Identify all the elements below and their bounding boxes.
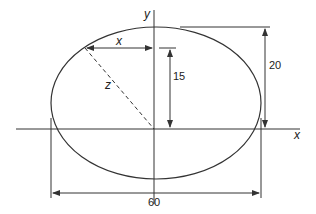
z-label: z: [104, 78, 111, 92]
z-radius-line: [85, 48, 154, 129]
height-20-label: 20: [269, 59, 281, 71]
x-offset-label: x: [115, 34, 123, 48]
y-axis-label: y: [143, 7, 151, 21]
width-60-label: 60: [148, 196, 160, 208]
x-axis-label: x: [293, 128, 301, 142]
ellipse-diagram: y x x z 15 20 60: [0, 0, 316, 214]
ellipse: [51, 27, 261, 179]
height-15-label: 15: [173, 70, 185, 82]
